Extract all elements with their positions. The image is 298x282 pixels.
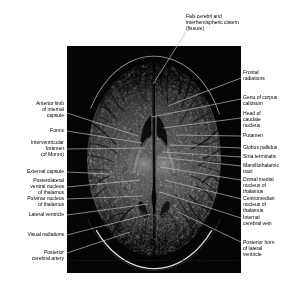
label-putamen: Putamen [243, 133, 298, 139]
label-anterior-limb-internal-capsule: Anterior limb of internal capsule [2, 101, 64, 119]
label-posterolateral-ventral-nucleus: Posterolateral ventral nucleus of thalam… [2, 178, 64, 196]
label-internal-cerebral-vein: Internal cerebral vein [243, 215, 298, 227]
brain-section-image [67, 46, 241, 273]
label-frontal-radiations: Frontal radiations [243, 70, 298, 82]
label-head-caudate-nucleus: Head of caudate nucleus [243, 111, 298, 129]
label-dorsal-medial-nucleus: Dorsal medial nucleus of thalamus [243, 177, 298, 195]
label-fornix: Fornix [2, 128, 64, 134]
label-globus-pallidus: Globus pallidus [243, 145, 298, 151]
label-interventricular-foramen: Interventricular foramen (of Monro) [2, 140, 64, 158]
label-visual-radiations: Visual radiations [2, 232, 64, 238]
label-pulvinar-nucleus: Pulvinar nucleus of thalamus [2, 196, 64, 208]
label-posterior-cerebral-artery: Posterior cerebral artery [2, 250, 64, 262]
label-falx-cerebri: Falx cerebri and interhemispheric cister… [186, 14, 282, 32]
label-lateral-ventricle: Lateral ventricle [2, 212, 64, 218]
anatomical-figure: Falx cerebri and interhemispheric cister… [0, 0, 298, 282]
label-external-capsule: External capsule [2, 169, 64, 175]
brain-section-canvas [67, 46, 241, 273]
label-mamillothalamic-tract: Mamillothalamic tract [243, 163, 298, 175]
label-stria-terminalis: Stria terminalis [243, 154, 298, 160]
label-centromedian-nucleus: Centromedian nucleus of thalamus [243, 196, 298, 214]
label-genu-corpus-callosum: Genu of corpus callosum [243, 95, 298, 107]
label-posterior-horn-lateral-ventricle: Posterior horn of lateral ventricle [243, 240, 298, 258]
